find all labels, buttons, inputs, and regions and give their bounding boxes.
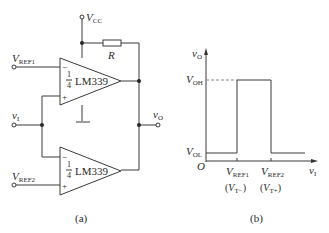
origin-label: O [197, 160, 205, 172]
upper-part-label: LM339 [75, 75, 109, 87]
vcc-label: VCC [86, 11, 102, 25]
caption-b: (b) [250, 212, 263, 225]
vt-plus-label: (VT+) [260, 182, 281, 195]
caption-a: (a) [75, 212, 88, 225]
vo-label: vO [153, 108, 163, 122]
circuit-schematic: VCC R − + 1 4 LM339 VREF1 vI [12, 11, 163, 225]
resistor-label: R [107, 49, 115, 61]
resistor-icon [103, 40, 121, 46]
vref2-label: VREF2 [12, 170, 36, 184]
vi-label: vI [12, 109, 20, 123]
vo-terminal [156, 123, 160, 127]
y-axis-arrow-icon [204, 48, 208, 55]
transfer-curve [206, 80, 305, 153]
vref1-label: VREF1 [12, 52, 36, 66]
y-axis-label: vO [192, 47, 202, 61]
lower-part-label: LM339 [75, 165, 109, 177]
lower-noninverting-sign: + [62, 181, 67, 191]
voh-label: VOH [186, 73, 203, 87]
lower-fraction-num: 1 [67, 160, 71, 169]
x-axis-arrow-icon [311, 159, 318, 163]
vol-label: VOL [186, 145, 202, 159]
vref2-tick-label: VREF2 [261, 165, 285, 179]
lower-fraction-den: 4 [67, 171, 71, 180]
vi-feed-wire [42, 96, 60, 157]
window-comparator-figure: VCC R − + 1 4 LM339 VREF1 vI [0, 0, 329, 233]
vref1-tick-label: VREF1 [226, 165, 250, 179]
x-axis-label: vI [309, 164, 317, 178]
vt-minus-label: (VT−) [225, 182, 246, 195]
junction-dot [137, 79, 141, 83]
transfer-characteristic: vO vI O VOH VOL VREF1 (VT−) VREF2 (VT+) … [186, 47, 318, 225]
upper-fraction-den: 4 [67, 81, 71, 90]
upper-noninverting-sign: + [62, 92, 67, 102]
vcc-terminal [80, 15, 84, 19]
upper-fraction-num: 1 [67, 70, 71, 79]
vi-terminal [12, 123, 16, 127]
vref2-terminal [12, 183, 16, 187]
vref1-terminal [12, 65, 16, 69]
